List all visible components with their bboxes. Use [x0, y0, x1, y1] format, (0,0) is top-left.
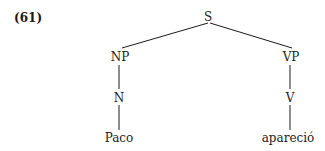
node-np: NP [111, 51, 130, 63]
node-v: V [286, 92, 295, 104]
node-n: N [114, 92, 125, 104]
node-s: S [204, 11, 212, 23]
node-vp: VP [283, 51, 300, 63]
tree-branches [0, 0, 325, 151]
branch-s-np [122, 23, 208, 48]
leaf-paco: Paco [105, 132, 134, 144]
leaf-aparecio: apareció [262, 132, 315, 144]
branch-s-vp [210, 23, 292, 48]
